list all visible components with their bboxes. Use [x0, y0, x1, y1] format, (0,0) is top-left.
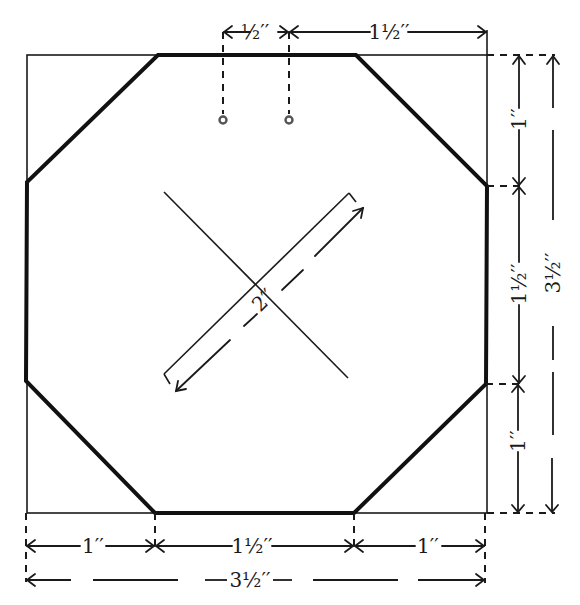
right-top-label: 1′′: [507, 108, 531, 130]
top-hole-to-edge-label: 1½′′: [368, 20, 410, 44]
diagonal-dim-line-b: [282, 270, 303, 290]
bottom-right-label: 1′′: [417, 534, 439, 558]
diagonal-dim-line-d: [176, 340, 230, 391]
hole-left: [220, 117, 227, 124]
diagonal-dim-line-a: [315, 208, 363, 256]
hole-right: [286, 117, 293, 124]
top-hole-spacing-label: ½′′: [241, 20, 270, 44]
diagonal-dim-tick-top: [349, 193, 356, 202]
diagonal-dim-tick-bottom: [164, 374, 170, 384]
bottom-total-label: 3½′′: [229, 568, 271, 592]
diagonal-dim-line-c: [244, 314, 257, 326]
right-total-label: 3½′′: [541, 252, 565, 294]
bottom-middle-label: 1½′′: [231, 534, 273, 558]
right-middle-label: 1½′′: [507, 263, 531, 305]
bottom-left-label: 1′′: [82, 534, 104, 558]
octagon-dimension-diagram: 2′′ ½′′ 1½′′ 1′′ 1½′′ 1′′ 3½′′: [0, 0, 580, 605]
right-bottom-label: 1′′: [506, 430, 530, 452]
